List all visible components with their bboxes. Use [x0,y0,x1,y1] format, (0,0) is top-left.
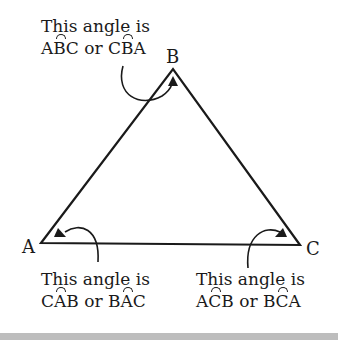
bottom-gray-band [0,333,338,340]
vertex-label-c: C [306,238,320,259]
annotation-c-line1: This angle is [196,268,305,290]
letter: C [66,38,79,58]
letter: A [196,291,208,311]
letter: A [288,291,300,311]
or-text: or [79,38,108,58]
hat-letter: A [54,290,66,312]
angle-marker-c [275,228,287,237]
annotation-angle-a: This angle is CAB or BAC [41,268,150,312]
letter: B [263,291,276,311]
angle-marker-b [168,76,178,86]
angle-marker-a [54,228,66,237]
vertex-label-b: B [166,46,179,67]
hat-letter: A [120,290,132,312]
arrow-curve-a [65,228,98,262]
letter: C [108,38,121,58]
letter: B [66,291,79,311]
hat-letter: C [275,290,288,312]
annotation-a-line1: This angle is [41,268,150,290]
annotation-angle-c: This angle is ACB or BCA [196,268,305,312]
hat-letter: B [53,37,66,59]
annotation-b-line2: ABC or CBA [41,37,150,59]
letter: B [221,291,234,311]
hat-letter: B [121,37,134,59]
letter: A [41,38,53,58]
letter: B [108,291,121,311]
annotation-a-line2: CAB or BAC [41,290,150,312]
or-text: or [79,291,108,311]
annotation-b-line1: This angle is [41,15,150,37]
or-text: or [234,291,263,311]
triangle-abc [41,69,300,245]
vertex-label-a: A [22,236,35,257]
annotation-c-line2: ACB or BCA [196,290,305,312]
arrow-curve-b [121,66,172,100]
letter: C [41,291,54,311]
letter: C [133,291,146,311]
annotation-angle-b: This angle is ABC or CBA [41,15,150,59]
letter: A [133,38,145,58]
hat-letter: C [208,290,221,312]
arrow-curve-c [248,230,280,268]
